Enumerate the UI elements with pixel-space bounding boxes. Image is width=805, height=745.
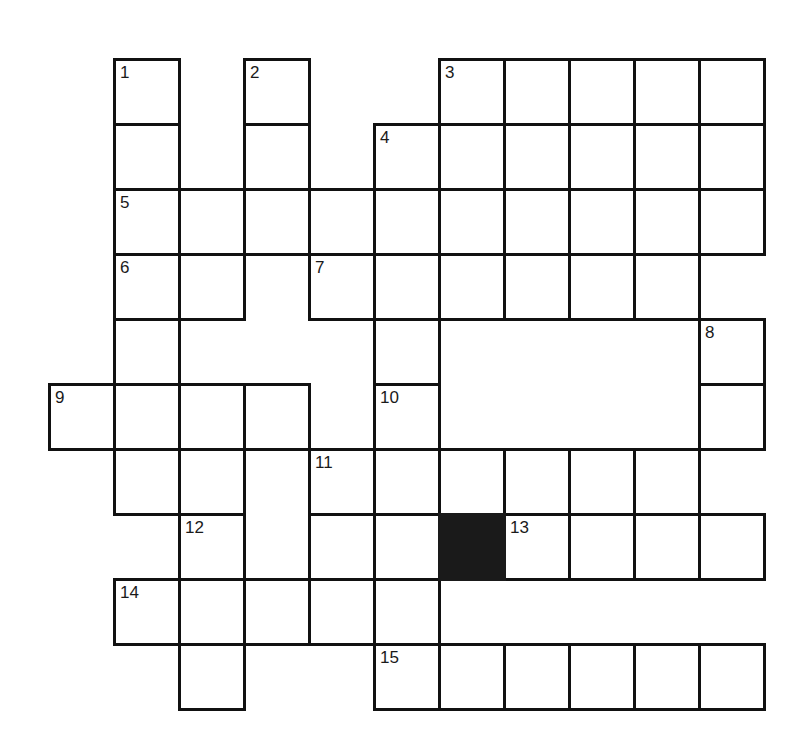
crossword-cell[interactable] xyxy=(113,188,181,256)
crossword-cell[interactable] xyxy=(113,253,181,321)
crossword-cell[interactable] xyxy=(243,578,311,646)
crossword-cell[interactable] xyxy=(373,578,441,646)
crossword-cell[interactable] xyxy=(178,578,246,646)
crossword-cell[interactable] xyxy=(373,383,441,451)
crossword-cell[interactable] xyxy=(243,123,311,191)
crossword-cell[interactable] xyxy=(633,513,701,581)
crossword-cell[interactable] xyxy=(113,58,181,126)
crossword-cell[interactable] xyxy=(308,253,376,321)
crossword-cell[interactable] xyxy=(373,513,441,581)
crossword-cell[interactable] xyxy=(503,58,571,126)
crossword-cell[interactable] xyxy=(698,643,766,711)
crossword-cell[interactable] xyxy=(438,188,506,256)
crossword-cell[interactable] xyxy=(568,643,636,711)
crossword-cell[interactable] xyxy=(308,513,376,581)
crossword-cell[interactable] xyxy=(243,383,311,451)
crossword-cell[interactable] xyxy=(178,643,246,711)
crossword-cell[interactable] xyxy=(633,448,701,516)
crossword-grid[interactable]: 123456789101112131415 xyxy=(0,0,805,745)
crossword-cell[interactable] xyxy=(438,448,506,516)
crossword-cell[interactable] xyxy=(438,58,506,126)
crossword-cell[interactable] xyxy=(373,318,441,386)
crossword-cell[interactable] xyxy=(633,123,701,191)
crossword-cell[interactable] xyxy=(438,123,506,191)
crossword-cell[interactable] xyxy=(113,383,181,451)
crossword-cell[interactable] xyxy=(633,188,701,256)
crossword-cell[interactable] xyxy=(698,383,766,451)
crossword-cell[interactable] xyxy=(308,448,376,516)
crossword-cell[interactable] xyxy=(243,58,311,126)
crossword-cell[interactable] xyxy=(503,123,571,191)
crossword-cell[interactable] xyxy=(48,383,116,451)
crossword-cell[interactable] xyxy=(178,253,246,321)
crossword-cell[interactable] xyxy=(633,253,701,321)
crossword-cell[interactable] xyxy=(373,643,441,711)
crossword-cell[interactable] xyxy=(503,448,571,516)
crossword-cell[interactable] xyxy=(698,188,766,256)
crossword-cell[interactable] xyxy=(113,578,181,646)
crossword-cell[interactable] xyxy=(308,578,376,646)
crossword-cell[interactable] xyxy=(243,188,311,256)
crossword-cell[interactable] xyxy=(113,318,181,386)
crossword-cell[interactable] xyxy=(373,188,441,256)
crossword-cell[interactable] xyxy=(503,513,571,581)
crossword-cell[interactable] xyxy=(568,123,636,191)
crossword-cell[interactable] xyxy=(178,448,246,516)
crossword-cell[interactable] xyxy=(568,188,636,256)
crossword-blocked-cell xyxy=(438,513,506,581)
crossword-cell[interactable] xyxy=(568,448,636,516)
crossword-puzzle: 123456789101112131415 xyxy=(0,0,805,745)
crossword-cell[interactable] xyxy=(698,123,766,191)
crossword-cell[interactable] xyxy=(438,253,506,321)
crossword-cell[interactable] xyxy=(308,188,376,256)
crossword-cell[interactable] xyxy=(633,58,701,126)
crossword-cell[interactable] xyxy=(503,643,571,711)
crossword-cell[interactable] xyxy=(503,253,571,321)
crossword-cell[interactable] xyxy=(438,643,506,711)
crossword-cell[interactable] xyxy=(178,513,246,581)
crossword-cell[interactable] xyxy=(178,188,246,256)
crossword-cell[interactable] xyxy=(113,123,181,191)
crossword-cell[interactable] xyxy=(698,318,766,386)
crossword-cell[interactable] xyxy=(373,253,441,321)
crossword-cell[interactable] xyxy=(178,383,246,451)
crossword-cell[interactable] xyxy=(633,643,701,711)
crossword-cell[interactable] xyxy=(568,58,636,126)
crossword-cell[interactable] xyxy=(568,253,636,321)
crossword-cell[interactable] xyxy=(373,448,441,516)
crossword-cell[interactable] xyxy=(568,513,636,581)
crossword-cell[interactable] xyxy=(113,448,181,516)
crossword-cell[interactable] xyxy=(698,58,766,126)
crossword-cell[interactable] xyxy=(698,513,766,581)
crossword-cell[interactable] xyxy=(373,123,441,191)
crossword-cell[interactable] xyxy=(503,188,571,256)
